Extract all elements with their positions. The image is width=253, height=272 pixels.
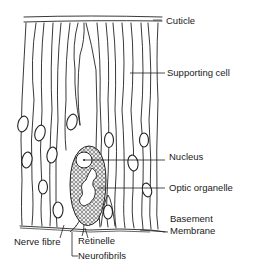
- label-neurofibrils: Neurofibrils: [78, 250, 126, 261]
- diagram-canvas: Cuticle Supporting cell Nucleus Optic or…: [0, 0, 253, 272]
- label-cuticle: Cuticle: [166, 15, 195, 26]
- label-nerve-fibre: Nerve fibre: [14, 236, 60, 247]
- label-optic-organelle: Optic organelle: [169, 182, 233, 193]
- label-retinelle: Retinelle: [78, 235, 115, 246]
- label-supporting-cell: Supporting cell: [167, 67, 230, 78]
- label-nucleus: Nucleus: [169, 151, 204, 162]
- label-membrane: Membrane: [170, 225, 215, 236]
- cuticle-layer: [24, 16, 162, 22]
- label-basement: Basement: [170, 213, 213, 224]
- optic-organelle: [70, 146, 106, 236]
